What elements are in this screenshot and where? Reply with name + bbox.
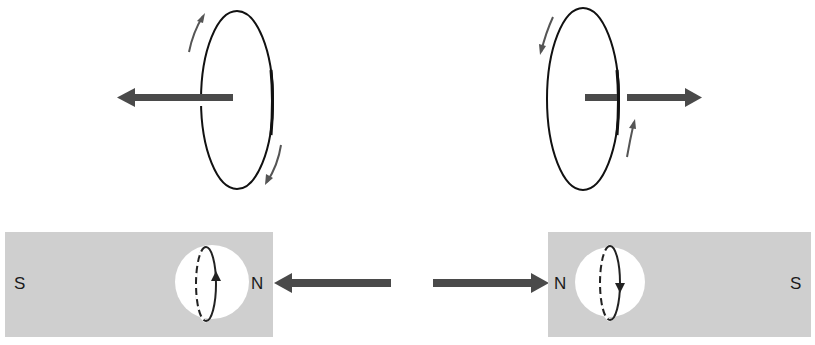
left-bar-magnet: S N (5, 232, 273, 337)
current-arrow-down-icon (539, 17, 553, 55)
magnet-loop-diagram: S N N S (0, 0, 815, 345)
current-arrow-up-icon (627, 119, 636, 157)
right-pointing-arrow-icon (585, 88, 702, 107)
south-pole-label: S (14, 274, 25, 293)
left-pointing-arrow-icon (117, 88, 233, 107)
right-bar-magnet: N S (548, 232, 811, 337)
north-pole-label: N (251, 274, 263, 293)
top-left-current-loop (117, 11, 281, 189)
current-arrow-up-icon (189, 13, 205, 52)
right-field-arrow-icon (433, 273, 549, 293)
south-pole-label: S (790, 274, 801, 293)
top-right-current-loop (539, 8, 702, 190)
left-field-arrow-icon (274, 273, 391, 293)
north-pole-label: N (554, 274, 566, 293)
